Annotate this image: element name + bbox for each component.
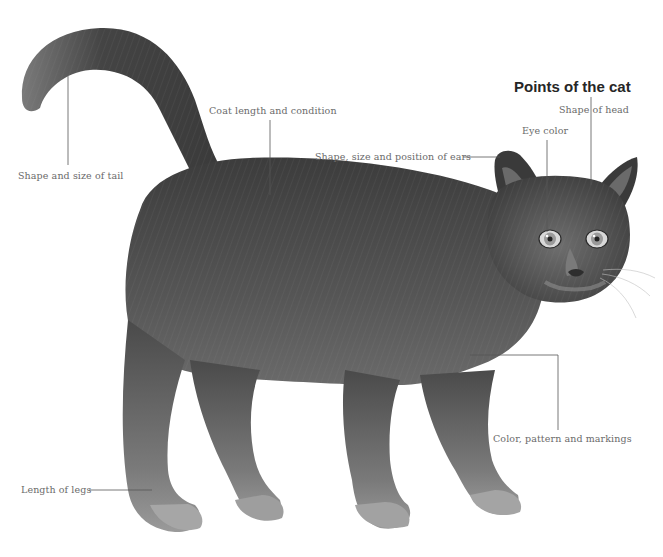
label-ears: Shape, size and position of ears xyxy=(315,151,471,162)
page-title: Points of the cat xyxy=(514,78,631,95)
label-shape-of-head: Shape of head xyxy=(559,104,629,115)
label-color-pattern: Color, pattern and markings xyxy=(493,433,632,444)
label-length-of-legs: Length of legs xyxy=(21,484,91,495)
cat-tail xyxy=(22,28,222,190)
label-tail: Shape and size of tail xyxy=(18,170,123,181)
cat-body xyxy=(125,157,545,385)
cat-eye-right xyxy=(586,230,608,248)
cat-eye-left xyxy=(539,230,561,248)
cat-leg-back-right xyxy=(190,360,284,521)
cat-leg-front-left xyxy=(343,370,410,529)
illustration-page: Points of the cat Shape of head Eye colo… xyxy=(0,0,663,557)
label-coat-length: Coat length and condition xyxy=(209,105,337,116)
label-eye-color: Eye color xyxy=(522,125,568,136)
